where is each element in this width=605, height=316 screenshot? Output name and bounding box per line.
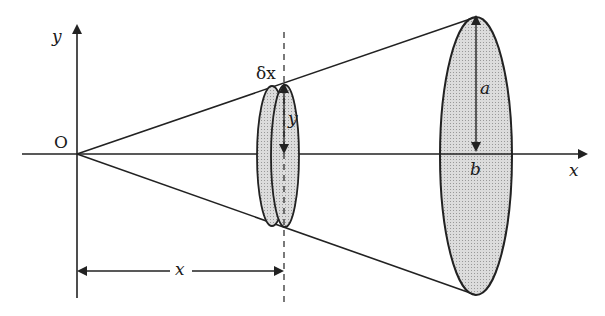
cone-diagram: y O δx y a b x x bbox=[0, 0, 605, 316]
cone-height-label: b bbox=[470, 161, 481, 178]
diagram-canvas bbox=[0, 0, 605, 316]
distance-label: x bbox=[175, 261, 185, 278]
slice-thickness-label: δx bbox=[256, 65, 276, 82]
cone-radius-label: a bbox=[480, 80, 490, 97]
origin-label: O bbox=[54, 134, 68, 151]
y-axis-label: y bbox=[52, 28, 62, 45]
x-axis-label: x bbox=[569, 162, 579, 179]
slice-front-face bbox=[271, 85, 299, 227]
slice-radius-label: y bbox=[288, 110, 298, 127]
